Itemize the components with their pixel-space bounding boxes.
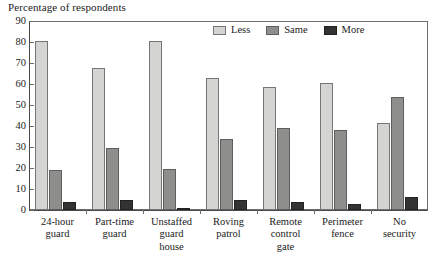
chart-legend: LessSameMore — [213, 25, 364, 35]
x-axis-group-tick — [314, 210, 315, 214]
y-axis-tick-label: 20 — [2, 163, 26, 173]
bar-same-1 — [106, 148, 119, 210]
y-axis-tick-label: 70 — [2, 58, 26, 68]
y-axis-tick-label: 30 — [2, 142, 26, 152]
bar-less-4 — [263, 87, 276, 210]
legend-item-same: Same — [266, 25, 307, 35]
legend-label: Same — [284, 25, 307, 35]
x-axis-category-label: Part-timeguard — [86, 216, 143, 241]
x-axis-category-label: Unstaffedguardhouse — [143, 216, 200, 253]
bar-same-4 — [277, 128, 290, 210]
y-axis-tick — [30, 42, 34, 43]
y-axis-tick — [30, 168, 34, 169]
legend-swatch-less-icon — [213, 26, 226, 35]
bar-more-2 — [177, 208, 190, 210]
y-axis-tick — [30, 147, 34, 148]
y-axis-tick-label: 50 — [2, 100, 26, 110]
y-axis-tick-label: 90 — [2, 16, 26, 26]
x-axis-category-label: 24-hourguard — [29, 216, 86, 241]
x-axis-label-line: Unstaffed — [143, 216, 200, 228]
x-axis-label-line: control — [257, 228, 314, 240]
bar-more-1 — [120, 200, 133, 211]
x-axis-category-label: Perimeterfence — [314, 216, 371, 241]
x-axis-label-line: Remote — [257, 216, 314, 228]
legend-swatch-more-icon — [324, 26, 337, 35]
x-axis-group-tick — [371, 210, 372, 214]
bar-same-2 — [163, 169, 176, 210]
bar-less-1 — [92, 68, 105, 210]
y-axis-tick — [30, 126, 34, 127]
x-axis-label-line: gate — [257, 241, 314, 253]
legend-label: Less — [231, 25, 250, 35]
x-axis-category-label: Remotecontrolgate — [257, 216, 314, 253]
bar-more-6 — [405, 197, 418, 210]
x-axis-label-line: Roving — [200, 216, 257, 228]
x-axis-label-line: fence — [314, 228, 371, 240]
bar-less-5 — [320, 83, 333, 210]
bar-less-2 — [149, 41, 162, 210]
bars-layer — [29, 21, 428, 210]
y-axis-tick — [30, 189, 34, 190]
x-axis-labels: 24-hourguardPart-timeguardUnstaffedguard… — [29, 216, 428, 274]
bar-more-5 — [348, 204, 361, 210]
y-axis-tick-label: 60 — [2, 79, 26, 89]
legend-swatch-same-icon — [266, 26, 279, 35]
x-axis-category-label: Nosecurity — [371, 216, 428, 241]
bar-more-3 — [234, 200, 247, 211]
bar-same-5 — [334, 130, 347, 210]
x-axis-label-line: guard — [86, 228, 143, 240]
bar-less-3 — [206, 78, 219, 210]
x-axis-line — [29, 210, 428, 211]
x-axis-label-line: No — [371, 216, 428, 228]
x-axis-group-tick — [86, 210, 87, 214]
y-axis-labels: 0102030405060708090 — [0, 0, 26, 274]
y-axis-tick — [30, 21, 34, 22]
y-axis-tick — [30, 63, 34, 64]
bar-less-6 — [377, 123, 390, 210]
x-axis-label-line: 24-hour — [29, 216, 86, 228]
y-axis-tick-label: 0 — [2, 205, 26, 215]
bar-same-0 — [49, 170, 62, 210]
y-axis-tick — [30, 210, 34, 211]
x-axis-label-line: Perimeter — [314, 216, 371, 228]
legend-label: More — [342, 25, 365, 35]
x-axis-group-tick — [257, 210, 258, 214]
y-axis-tick-label: 40 — [2, 121, 26, 131]
y-axis-tick — [30, 84, 34, 85]
legend-item-less: Less — [213, 25, 250, 35]
bar-chart: Percentage of respondents 01020304050607… — [0, 0, 438, 274]
y-axis-tick-label: 80 — [2, 37, 26, 47]
legend-item-more: More — [324, 25, 365, 35]
x-axis-label-line: Part-time — [86, 216, 143, 228]
x-axis-group-tick — [200, 210, 201, 214]
x-axis-label-line: guard — [143, 228, 200, 240]
x-axis-label-line: guard — [29, 228, 86, 240]
bar-more-4 — [291, 202, 304, 210]
x-axis-group-tick — [143, 210, 144, 214]
x-axis-label-line: patrol — [200, 228, 257, 240]
bar-same-6 — [391, 97, 404, 210]
bar-same-3 — [220, 139, 233, 210]
y-axis-tick — [30, 105, 34, 106]
y-axis-tick-label: 10 — [2, 184, 26, 194]
bar-less-0 — [35, 41, 48, 210]
x-axis-label-line: security — [371, 228, 428, 240]
bar-more-0 — [63, 202, 76, 210]
x-axis-label-line: house — [143, 241, 200, 253]
x-axis-category-label: Rovingpatrol — [200, 216, 257, 241]
